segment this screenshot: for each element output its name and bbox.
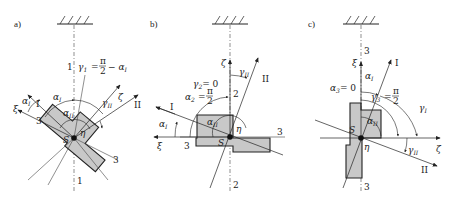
svg-text:2: 2 (233, 89, 239, 99)
centroid-S (227, 134, 233, 140)
svg-text:ξ: ξ (352, 58, 358, 68)
svg-text:S: S (349, 125, 355, 135)
svg-text:3: 3 (184, 141, 190, 151)
mechanics-diagram: a) I ξ ζ II (0, 0, 457, 201)
svg-text:ξ: ξ (157, 141, 163, 151)
svg-text:2: 2 (393, 96, 399, 106)
svg-text:2: 2 (233, 180, 239, 190)
svg-text:ζ: ζ (436, 144, 442, 154)
gammaI-label: γI (419, 103, 427, 114)
svg-text:2: 2 (207, 96, 213, 106)
svg-text:=: = (384, 92, 392, 102)
centroid-S (358, 135, 364, 141)
svg-text:3: 3 (277, 127, 283, 137)
alpha1-inner-label: αI (53, 92, 62, 103)
label-eta: η (80, 128, 86, 138)
label-S: S (63, 135, 69, 145)
gamma2-equation: γ2= 0 (193, 79, 219, 90)
alpha1-label: αI (159, 119, 168, 130)
svg-text:γ3: γ3 (371, 92, 380, 103)
svg-text:2: 2 (100, 66, 106, 76)
svg-text:α2: α2 (185, 92, 195, 103)
gammaII-label: γII (239, 67, 250, 78)
svg-text:II: II (262, 74, 270, 84)
panel-c: c) ξ ζ I II S η 3 3 α3= 0 αI (308, 16, 442, 192)
svg-text:π: π (207, 86, 213, 96)
svg-text:II: II (421, 165, 429, 175)
svg-text:3: 3 (364, 182, 370, 192)
svg-text:γ1: γ1 (78, 62, 87, 73)
line-3-right: 3 (113, 155, 119, 165)
alpha1-label: αI (365, 71, 374, 82)
svg-text:ζ: ζ (221, 58, 227, 68)
fixed-support-icon (343, 16, 379, 24)
panel-b: b) ξ ζ I II S η 2 2 (150, 16, 285, 192)
svg-text:π: π (100, 56, 106, 66)
svg-text:S: S (218, 138, 224, 148)
gamma1-equation: γ1 = π 2 − αI (78, 56, 127, 76)
alpha3-equation: α3= 0 (330, 83, 356, 94)
fixed-support-icon (57, 16, 93, 24)
line-1-top: 1 (67, 62, 73, 72)
label-II: II (134, 100, 142, 110)
svg-text:=: = (198, 92, 206, 102)
panel-b-label: b) (150, 19, 158, 29)
svg-text:η: η (236, 124, 242, 134)
svg-text:=: = (91, 62, 99, 72)
panel-a-label: a) (14, 19, 21, 29)
line-3-left: 3 (36, 116, 42, 126)
label-xi: ξ (13, 104, 19, 114)
line-1-bottom: 1 (77, 176, 83, 186)
alphaII-label: αII (63, 108, 74, 119)
alpha1-outer-label: αI (22, 96, 31, 107)
svg-text:I: I (395, 58, 399, 68)
svg-text:− αI: − αI (108, 62, 127, 73)
gammaII-label: γII (408, 145, 419, 156)
panel-c-label: c) (308, 19, 315, 29)
svg-text:η: η (364, 142, 370, 152)
svg-text:I: I (170, 102, 174, 112)
panel-a: a) I ξ ζ II (13, 16, 142, 192)
svg-text:π: π (393, 86, 399, 96)
label-zeta: ζ (118, 92, 124, 102)
fixed-support-icon (212, 16, 248, 24)
svg-text:3: 3 (364, 46, 370, 56)
gammaII-label: γII (102, 98, 113, 109)
centroid-S (71, 135, 77, 141)
